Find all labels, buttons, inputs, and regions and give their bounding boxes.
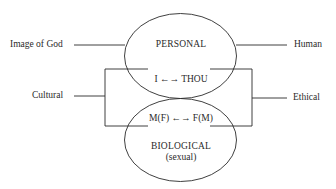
label-i-thou: I ←→ THOU — [154, 75, 207, 85]
label-human: Human — [294, 40, 322, 50]
label-image-of-god: Image of God — [10, 40, 63, 50]
diagram-canvas: Image of God Human Cultural Ethical PERS… — [0, 0, 336, 189]
label-cultural: Cultural — [32, 91, 63, 101]
biological-ellipse — [125, 99, 237, 182]
label-mf-fm: M(F) ←→ F(M) — [149, 114, 213, 124]
cultural-bracket — [105, 69, 148, 126]
ethical-bracket — [210, 69, 252, 126]
label-ethical: Ethical — [293, 93, 320, 103]
label-biological: BIOLOGICAL — [151, 142, 211, 152]
label-personal: PERSONAL — [156, 40, 207, 50]
personal-ellipse — [125, 14, 237, 99]
label-sexual: (sexual) — [166, 153, 197, 163]
